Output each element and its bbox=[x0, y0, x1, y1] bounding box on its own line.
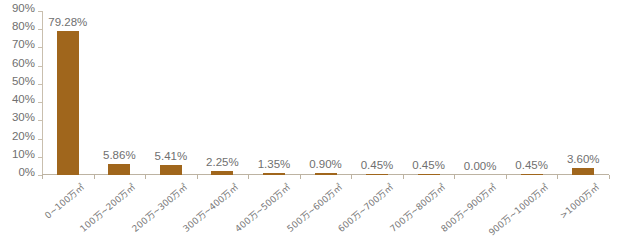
x-axis-category-label-text: 500万~600万㎡ bbox=[285, 182, 344, 234]
y-axis-tick-label: 90% bbox=[12, 3, 35, 14]
bar-group: 5.86% bbox=[108, 11, 130, 175]
bar bbox=[263, 173, 285, 175]
y-axis-tick-label: 10% bbox=[12, 149, 35, 160]
y-axis-tick-label: 30% bbox=[12, 112, 35, 123]
bar bbox=[315, 173, 337, 175]
x-axis-category-label-text: >1000万㎡ bbox=[558, 182, 602, 221]
y-axis-tick-label: 40% bbox=[12, 94, 35, 105]
x-axis-tick-mark bbox=[42, 175, 43, 179]
y-axis-tick-label: 20% bbox=[12, 131, 35, 142]
x-axis-category-label-text: 0~100万㎡ bbox=[43, 182, 87, 221]
x-axis-category-label-text: 600万~700万㎡ bbox=[336, 182, 395, 234]
bar-chart: 0%10%20%30%40%50%60%70%80%90% 79.28%5.86… bbox=[0, 0, 618, 247]
y-axis-tick-label: 0% bbox=[18, 167, 35, 178]
bar-value-label: 79.28% bbox=[48, 16, 87, 28]
x-axis-category-label-text: 100万~200万㎡ bbox=[79, 182, 138, 234]
x-axis-category-label-text: 400万~500万㎡ bbox=[233, 182, 292, 234]
bar bbox=[211, 171, 233, 175]
y-axis-tick-label: 60% bbox=[12, 58, 35, 69]
bar-group: 79.28% bbox=[57, 11, 79, 175]
bar bbox=[418, 174, 440, 175]
bar bbox=[521, 174, 543, 175]
y-axis-tick-label: 50% bbox=[12, 76, 35, 87]
x-axis-category-label-text: 300万~400万㎡ bbox=[182, 182, 241, 234]
y-axis-tick-label: 70% bbox=[12, 39, 35, 50]
bar bbox=[572, 168, 594, 175]
bar bbox=[57, 31, 79, 175]
y-axis-tick-label: 80% bbox=[12, 21, 35, 32]
bar bbox=[366, 174, 388, 175]
